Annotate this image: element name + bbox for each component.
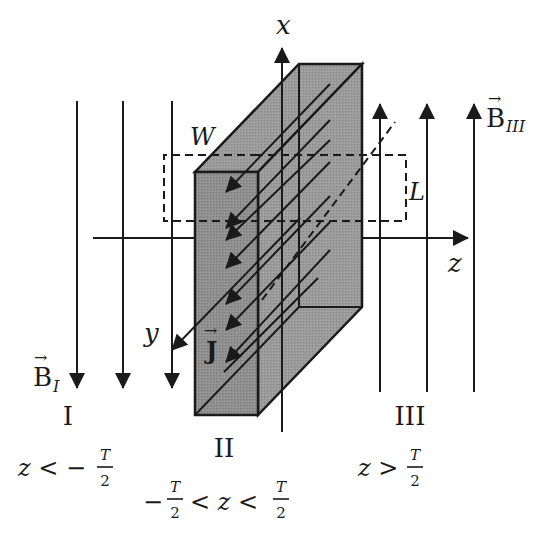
fraction-numerator: T <box>100 446 111 464</box>
region-numeral: II <box>214 433 235 463</box>
fraction-denominator: 2 <box>410 472 420 490</box>
B-III-symbol: B <box>486 103 505 133</box>
region-III-label: III z > T 2 <box>357 401 425 490</box>
current-density-label: → J <box>204 321 217 365</box>
fraction-numerator: T <box>276 478 287 496</box>
y-axis-label: y <box>143 318 159 348</box>
J-symbol: J <box>204 336 217 365</box>
width-label: W <box>190 123 217 151</box>
region-I-label: I z < − T 2 <box>17 401 113 490</box>
fraction-denominator: 2 <box>276 504 286 522</box>
region-condition-minus: − <box>143 488 163 516</box>
fraction-numerator: T <box>410 446 421 464</box>
fraction-denominator: 2 <box>170 504 180 522</box>
region-numeral: I <box>63 401 73 431</box>
current-slab-diagram: x y z W L → J → B I → B III I z < − T 2 … <box>0 0 548 551</box>
B-III-subscript: III <box>505 117 526 136</box>
region-condition-mid: < z < <box>190 488 258 516</box>
loop-length-label: L <box>408 178 425 206</box>
fraction-denominator: 2 <box>100 472 110 490</box>
fraction-numerator: T <box>170 478 181 496</box>
region-numeral: III <box>395 401 426 431</box>
region-II-label: II − T 2 < z < T 2 <box>143 433 289 522</box>
B-I-symbol: B <box>33 362 52 392</box>
B-I-subscript: I <box>52 377 60 396</box>
z-axis-label: z <box>447 248 462 278</box>
region-condition-lhs: z < − <box>17 454 86 482</box>
x-axis-label: x <box>276 10 291 40</box>
field-label-B-III: → B III <box>486 89 526 136</box>
field-label-B-I: → B I <box>33 348 60 396</box>
region-condition-lhs: z > <box>357 454 398 482</box>
